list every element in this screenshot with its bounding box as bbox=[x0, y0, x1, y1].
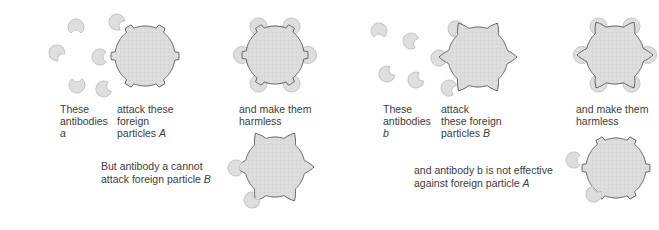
antibody-b bbox=[405, 70, 425, 91]
antibody-a bbox=[68, 19, 84, 33]
antibody-b-not-effective-a-note: and antibody b is not effective against … bbox=[414, 164, 553, 189]
particle-b-bound-harmless bbox=[574, 18, 657, 92]
attack-particles-a-label: attack these foreign particles A bbox=[117, 103, 174, 139]
particle-b-unaffected bbox=[228, 133, 314, 211]
foreign-particle-a bbox=[111, 25, 179, 87]
particle-a-unaffected bbox=[566, 137, 650, 205]
attack-particles-b-label: attack these foreign particles B bbox=[441, 103, 502, 139]
harmless-b-label: and make them harmless bbox=[576, 103, 648, 127]
antibodies-a-label: These antibodies a bbox=[60, 103, 108, 139]
antibody-a bbox=[92, 49, 106, 65]
harmless-a-label: and make them harmless bbox=[239, 103, 311, 127]
particle-a-bound-harmless bbox=[234, 18, 317, 92]
antibody-b bbox=[376, 64, 396, 85]
antibody-a bbox=[46, 42, 67, 63]
antibody-b bbox=[439, 78, 458, 98]
foreign-particle-b bbox=[236, 133, 314, 201]
neutralized-particle-a bbox=[242, 25, 308, 85]
antibodies-b-label: These antibodies b bbox=[383, 103, 431, 139]
antibody-b-ineffective bbox=[566, 152, 580, 168]
antibody-a bbox=[106, 11, 126, 32]
particle-a-target bbox=[111, 25, 179, 87]
neutralized-particle-b bbox=[577, 22, 653, 88]
antibody-a bbox=[69, 79, 85, 93]
antibody-a-cannot-attack-b-note: But antibody a cannot attack foreign par… bbox=[101, 160, 211, 185]
antibody-b bbox=[401, 31, 420, 51]
antibody-b bbox=[371, 23, 387, 37]
antibody-a bbox=[94, 79, 113, 99]
